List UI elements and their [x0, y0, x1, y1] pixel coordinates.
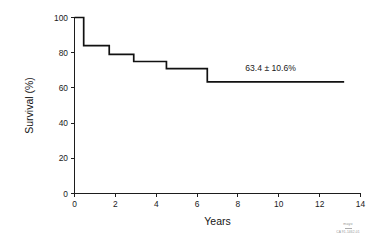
x-axis-tick-label: 0	[72, 199, 77, 209]
survival-curve	[75, 18, 345, 82]
survival-curve-group	[75, 18, 345, 82]
x-axis-tick-label: 4	[154, 199, 159, 209]
x-axis-tick-label: 12	[315, 199, 325, 209]
x-axis-tick-label: 8	[236, 199, 241, 209]
x-axis-title: Years	[204, 215, 230, 227]
watermark-name: mayo	[321, 222, 375, 226]
x-axis-tick-label: 6	[195, 199, 200, 209]
curve-annotation-group: 63.4 ± 10.6%	[245, 63, 296, 73]
survival-rate-annotation: 63.4 ± 10.6%	[245, 63, 296, 73]
y-axis-tick-label: 100	[54, 13, 68, 23]
y-axis-tick-label: 40	[59, 118, 69, 128]
y-axis-tick-label: 60	[59, 83, 69, 93]
y-axis-tick-label: 80	[59, 48, 69, 58]
survival-chart-figure: 020406080100 02468101214 63.4 ± 10.6% Su…	[0, 0, 381, 240]
watermark-code: CA 91-1462-01	[321, 230, 375, 234]
x-axis-tick-label: 10	[274, 199, 284, 209]
x-axis: 02468101214	[72, 194, 365, 210]
x-axis-tick-label: 14	[356, 199, 366, 209]
y-axis-tick-label: 0	[63, 189, 68, 199]
mayo-watermark: mayo CA 91-1462-01	[321, 222, 375, 234]
y-axis-title: Survival (%)	[23, 77, 35, 134]
survival-chart-plot: 020406080100 02468101214 63.4 ± 10.6% Su…	[0, 0, 381, 240]
y-axis-tick-label: 20	[59, 153, 69, 163]
y-axis: 020406080100	[54, 13, 74, 199]
watermark-divider	[345, 228, 352, 229]
x-axis-tick-label: 2	[113, 199, 118, 209]
